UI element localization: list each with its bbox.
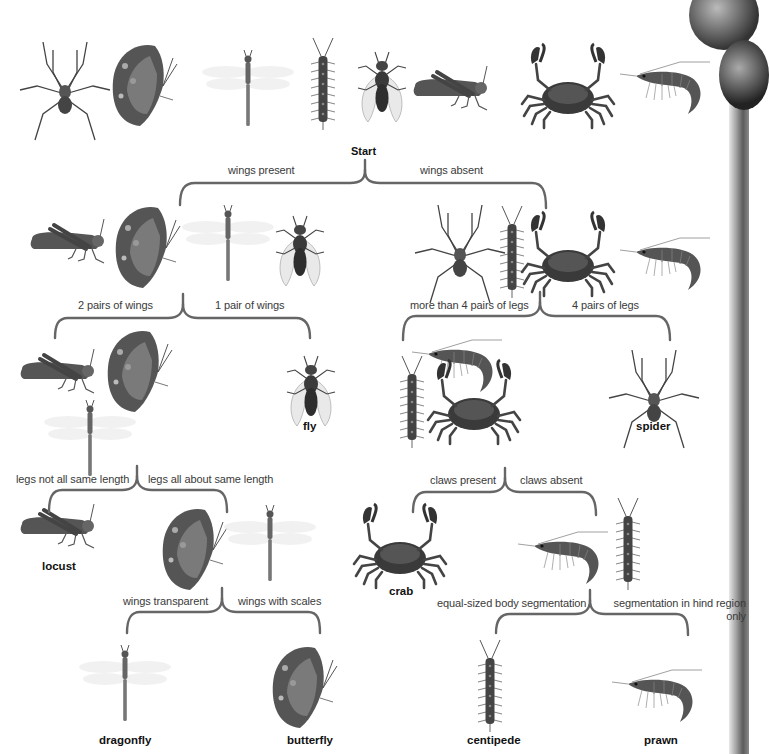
spider-illustration bbox=[20, 42, 110, 140]
result-butterfly: butterfly bbox=[287, 734, 333, 746]
result-fly: fly bbox=[303, 420, 316, 432]
branch-label-wings-present: wings present bbox=[228, 164, 295, 176]
branch-label-1-pair-of-wings: 1 pair of wings bbox=[215, 299, 284, 311]
branch-label-wings-transparent: wings transparent bbox=[123, 595, 208, 607]
branch-label-legs-not-all-same-length: legs not all same length bbox=[16, 473, 129, 485]
result-dragonfly: dragonfly bbox=[99, 734, 151, 746]
result-centipede: centipede bbox=[467, 734, 521, 746]
branch-label-4-pairs-of-legs: 4 pairs of legs bbox=[572, 299, 639, 311]
start-label: Start bbox=[351, 145, 376, 157]
branch-label-legs-all-about-same-length: legs all about same length bbox=[148, 473, 273, 485]
branch-label-wings-with-scales: wings with scales bbox=[238, 595, 321, 607]
branch-label-segmentation-in-hind-region-only: segmentation in hind region only bbox=[601, 597, 746, 623]
result-crab: crab bbox=[389, 585, 413, 597]
branch-label-claws-absent: claws absent bbox=[520, 474, 582, 486]
branch-label-wings-absent: wings absent bbox=[420, 164, 483, 176]
branch-label-equal-sized-body-segmentation: equal-sized body segmentation bbox=[437, 597, 586, 609]
result-locust: locust bbox=[42, 560, 76, 572]
branch-label-claws-present: claws present bbox=[430, 474, 496, 486]
branch-label-more-than-4-pairs-of-legs: more than 4 pairs of legs bbox=[410, 299, 529, 311]
branch-label-2-pairs-of-wings: 2 pairs of wings bbox=[78, 299, 153, 311]
result-spider: spider bbox=[636, 420, 671, 432]
result-prawn: prawn bbox=[644, 734, 678, 746]
